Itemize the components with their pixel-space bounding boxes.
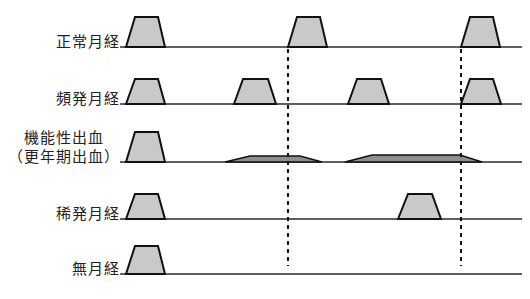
bleeding-event-frequent-1 — [126, 79, 165, 104]
row-label-line: 機能性出血 — [8, 129, 120, 148]
bleeding-event-dysfunctional-1 — [126, 132, 165, 162]
row-label-line: 無月経 — [72, 260, 120, 279]
row-label-dysfunctional: 機能性出血（更年期出血） — [8, 129, 120, 167]
row-label-line: 正常月経 — [56, 33, 120, 52]
bleeding-event-infrequent-2 — [398, 194, 441, 219]
bleeding-event-frequent-4 — [461, 79, 501, 104]
bleeding-event-dysfunctional-2 — [225, 156, 322, 162]
bleeding-event-normal-3 — [461, 17, 500, 47]
bleeding-event-amenorrhea-1 — [126, 246, 165, 274]
pulse-group — [126, 17, 501, 274]
row-label-amenorrhea: 無月経 — [72, 260, 120, 279]
menstrual-pattern-diagram: 正常月経頻発月経機能性出血（更年期出血）稀発月経無月経 — [0, 0, 530, 299]
row-label-line: （更年期出血） — [8, 148, 120, 167]
bleeding-event-normal-2 — [288, 17, 327, 47]
row-label-normal: 正常月経 — [56, 33, 120, 52]
row-label-line: 稀発月経 — [56, 205, 120, 224]
bleeding-event-frequent-3 — [348, 79, 389, 104]
row-label-line: 頻発月経 — [56, 90, 120, 109]
row-label-frequent: 頻発月経 — [56, 90, 120, 109]
bleeding-event-infrequent-1 — [126, 194, 165, 219]
bleeding-event-frequent-2 — [234, 79, 276, 104]
bleeding-event-normal-1 — [126, 17, 165, 47]
row-label-infrequent: 稀発月経 — [56, 205, 120, 224]
